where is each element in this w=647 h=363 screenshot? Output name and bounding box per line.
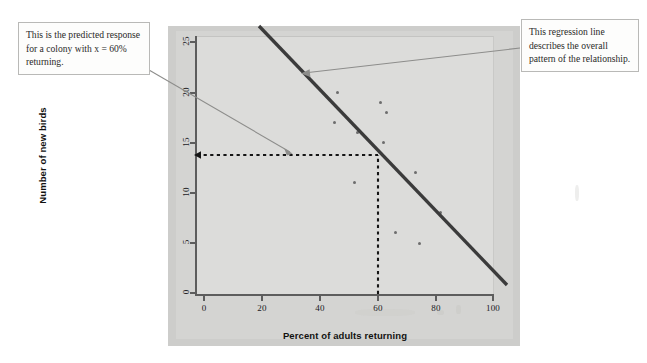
left-callout-leader <box>149 70 290 152</box>
regression-line-callout: This regression line describes the overa… <box>521 19 639 72</box>
predicted-guide-arrowhead <box>194 151 201 158</box>
figure-canvas: 0 5 10 15 20 25 0 20 40 60 80 100 Percen… <box>0 0 647 363</box>
predicted-response-callout: This is the predicted response for a col… <box>18 22 150 75</box>
right-callout-leader <box>304 48 520 73</box>
